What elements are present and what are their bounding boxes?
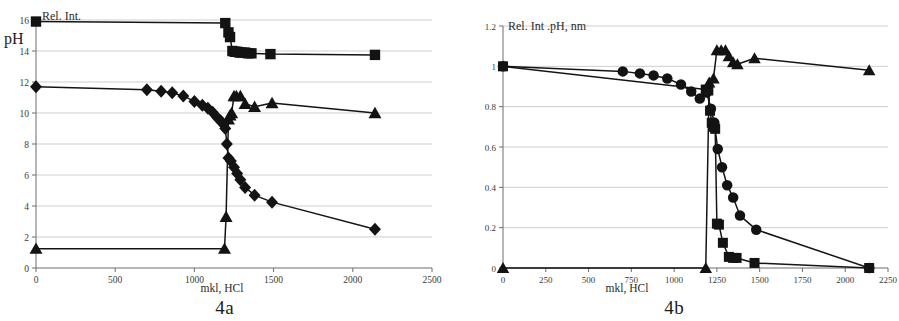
y-tick-labels: 00.20.40.60.811.2	[484, 22, 496, 274]
data-point-diamond	[266, 196, 278, 209]
data-point-circle	[617, 66, 628, 77]
chart-4a-caption: 4a	[0, 297, 450, 319]
x-tick-label: 1500	[264, 275, 283, 285]
y-tick-label: 4	[24, 202, 29, 212]
series-squares	[31, 16, 380, 60]
y-tick-label: 14	[20, 47, 30, 57]
x-tick-label: 2000	[343, 275, 362, 285]
series-polyline	[36, 96, 375, 249]
data-point-square	[498, 61, 508, 71]
x-axis-title: mkl, HCl	[201, 282, 244, 295]
y-tick-label: 8	[24, 140, 29, 150]
x-tick-label: 1250	[707, 275, 726, 285]
data-point-circle	[675, 79, 686, 90]
data-point-circle	[721, 180, 732, 191]
x-tick-label: 1750	[793, 275, 812, 285]
chart-panel-4a: 024681012141605001000150020002500Rel. In…	[0, 0, 450, 321]
series-polyline	[503, 50, 869, 268]
chart-4b-caption: 4b	[450, 297, 899, 319]
y-tick-label: 1.2	[484, 22, 495, 32]
data-point-square	[370, 50, 380, 60]
series-circles	[497, 61, 874, 273]
data-point-circle	[648, 70, 659, 81]
figure-container: 024681012141605001000150020002500Rel. In…	[0, 0, 899, 321]
chart-panel-4b: 00.20.40.60.811.202505007501000125015001…	[450, 0, 899, 321]
data-point-circle	[716, 162, 727, 173]
data-point-circle	[750, 224, 761, 235]
data-point-square	[265, 49, 275, 59]
x-tick-label: 1500	[750, 275, 769, 285]
data-point-square	[864, 263, 874, 273]
data-point-triangle	[225, 107, 238, 118]
series-diamonds	[30, 80, 381, 236]
x-tick-label: 2000	[836, 275, 855, 285]
axes-group	[499, 26, 888, 272]
x-tick-label: 250	[539, 275, 553, 285]
data-point-diamond	[369, 223, 381, 236]
data-point-diamond	[155, 85, 167, 98]
data-point-square	[225, 32, 235, 42]
data-point-square	[749, 258, 759, 268]
data-point-square	[713, 220, 723, 230]
y-tick-label: 0	[491, 264, 496, 274]
y-tick-label: 16	[20, 16, 30, 26]
y-tick-label: 0.6	[484, 143, 496, 153]
data-point-circle	[634, 68, 645, 79]
data-point-circle	[734, 210, 745, 221]
series-triangles	[496, 44, 875, 273]
series-polyline	[503, 66, 869, 268]
chart-4b-svg: 00.20.40.60.811.202505007501000125015001…	[450, 0, 899, 300]
y-tick-label: 10	[20, 109, 30, 119]
y-tick-label: 2	[24, 233, 29, 243]
data-point-square	[220, 18, 230, 28]
y-tick-label: 0.8	[484, 102, 496, 112]
x-tick-label: 2250	[879, 275, 898, 285]
data-point-diamond	[221, 138, 233, 151]
data-point-triangle	[220, 211, 233, 222]
x-tick-label: 0	[34, 275, 39, 285]
y-tick-label: 1	[491, 62, 496, 72]
y-axis-title: pH	[4, 30, 24, 48]
data-point-diamond	[177, 89, 189, 102]
data-point-square	[710, 124, 720, 134]
data-point-circle	[712, 144, 723, 155]
x-axis-title: mkl, HCl	[605, 282, 648, 295]
series-polyline	[503, 66, 869, 268]
y-tick-labels: 0246810121416	[20, 16, 30, 274]
series-squares	[498, 61, 874, 273]
data-point-circle	[727, 192, 738, 203]
y-tick-label: 6	[24, 171, 29, 181]
data-point-square	[246, 48, 256, 58]
y-tick-label: 0.2	[484, 223, 495, 233]
data-point-triangle	[266, 97, 279, 108]
series-triangles	[30, 90, 382, 254]
data-point-diamond	[249, 189, 261, 202]
x-tick-label: 1000	[665, 275, 684, 285]
series-polyline	[36, 22, 375, 55]
x-tick-label: 500	[581, 275, 595, 285]
chart-title: Rel. Int .pH, nm	[508, 19, 587, 33]
data-point-square	[705, 106, 715, 116]
x-tick-label: 2500	[423, 275, 442, 285]
x-tick-label: 500	[108, 275, 123, 285]
x-tick-labels: 0250500750100012501500175020002250	[500, 275, 897, 285]
data-point-square	[717, 238, 727, 248]
data-point-diamond	[141, 83, 153, 96]
y-tick-label: 12	[20, 78, 30, 88]
data-point-square	[31, 16, 41, 26]
data-point-square	[731, 253, 741, 263]
y-tick-label: 0	[24, 264, 29, 274]
data-point-triangle	[748, 52, 761, 63]
chart-4a-svg: 024681012141605001000150020002500Rel. In…	[0, 0, 449, 300]
data-point-circle	[662, 73, 673, 84]
gridlines-group	[503, 26, 888, 228]
data-point-diamond	[166, 86, 178, 99]
x-tick-label: 0	[500, 275, 505, 285]
y-tick-label: 0.4	[484, 183, 496, 193]
